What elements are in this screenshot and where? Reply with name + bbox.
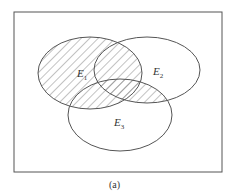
caption: (a)	[109, 179, 120, 191]
venn-diagram: E1 E2 E3 (a)	[0, 0, 234, 193]
